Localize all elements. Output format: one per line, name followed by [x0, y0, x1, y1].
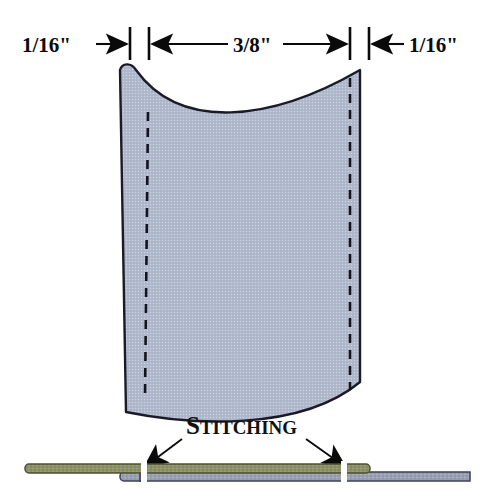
fabric-panel-shape [120, 64, 360, 421]
dimension-right-value: 1/16" [409, 33, 458, 57]
dimension-left-value: 1/16" [22, 33, 71, 57]
technical-diagram: 1/16" 3/8" 1/16" [0, 0, 497, 501]
diagram-canvas: 1/16" 3/8" 1/16" [0, 0, 497, 501]
dimension-left: 1/16" [22, 33, 127, 57]
dimension-center-label: 3/8" [233, 33, 272, 57]
dimension-right: 1/16" [372, 33, 458, 57]
fabric-panel [120, 64, 360, 421]
stitching-label-rest: TITCHING [200, 417, 297, 438]
stitch-gap-left [141, 461, 147, 485]
stitching-label: STITCHING [186, 412, 297, 439]
stitching-leader-left [146, 439, 182, 466]
cross-section-top-layer [25, 464, 370, 473]
stitching-label-initial: S [186, 412, 200, 439]
dimension-center: 3/8" [152, 33, 347, 57]
stitching-leader-right [306, 439, 344, 466]
top-layer-main [25, 464, 370, 473]
dimension-left-label: 1/16" [22, 33, 71, 57]
cross-section [25, 461, 470, 485]
dimension-right-label: 1/16" [409, 33, 458, 57]
stitch-gap-right [341, 461, 347, 485]
dimension-center-value: 3/8" [233, 33, 272, 57]
